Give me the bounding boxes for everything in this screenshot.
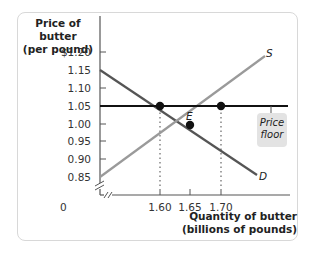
y-tick-label: 0.90: [68, 153, 91, 165]
price-floor-label-line2: floor: [257, 129, 287, 141]
y-tick-label: 0.95: [68, 135, 91, 147]
demand-label: D: [259, 170, 267, 182]
point-equilibrium: [186, 121, 194, 129]
x-axis-break-icon: [104, 192, 112, 198]
x-ticks: [160, 189, 221, 195]
y-tick-label: 0.85: [68, 171, 91, 183]
x-tick-label: 1.60: [145, 201, 175, 213]
price-floor-label-line1: Price: [257, 117, 287, 129]
supply-curve: [100, 56, 265, 177]
price-floor-label: Price floor: [257, 113, 287, 147]
y-tick-label: 1.05: [68, 100, 91, 112]
point-quantity-demanded: [156, 102, 164, 110]
origin-label: 0: [60, 201, 67, 213]
y-tick-label: $1.20: [61, 46, 91, 58]
x-axis-label-line1: Quantity of butter: [182, 210, 297, 223]
y-tick-label: 1.10: [68, 82, 91, 94]
y-tick-label: 1.00: [68, 118, 91, 130]
y-tick-label: 1.15: [68, 64, 91, 76]
x-axis-label-line2: (billions of pounds): [182, 223, 297, 236]
y-axis-label-line1: Price of butter: [22, 17, 94, 43]
point-quantity-supplied: [217, 102, 225, 110]
supply-label: S: [266, 47, 273, 59]
x-axis-label: Quantity of butter (billions of pounds): [182, 210, 297, 236]
equilibrium-label: E: [186, 110, 193, 122]
